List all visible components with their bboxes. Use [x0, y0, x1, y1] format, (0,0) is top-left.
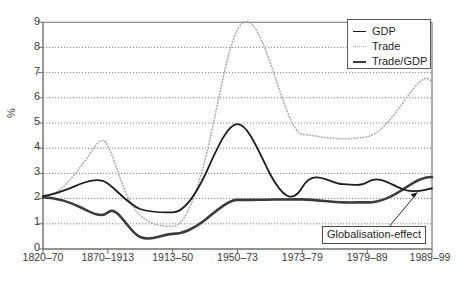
legend-entry-gdp: GDP [352, 23, 430, 38]
dotted-line-swatch-icon [352, 40, 367, 51]
x-tick-label: 1820–70 [23, 252, 64, 263]
legend-label: Trade [372, 40, 400, 52]
x-axis-tick-labels: 1820–70 1870–1913 1913–50 1950–73 1973–7… [0, 252, 467, 272]
legend-entry-trade: Trade [352, 38, 430, 53]
x-tick-label: 1950–73 [217, 252, 258, 263]
thick-line-swatch-icon [352, 55, 367, 66]
y-axis-ticks [38, 22, 43, 249]
annotation-label-globalisation-effect: Globalisation-effect [322, 226, 426, 244]
x-tick-label: 1979–89 [347, 252, 388, 263]
x-tick-label: 1973–79 [282, 252, 323, 263]
x-tick-label: 1989–99 [410, 252, 451, 263]
gridlines [43, 47, 432, 223]
solid-line-swatch-icon [352, 25, 367, 36]
legend-entry-trade-gdp: Trade/GDP [352, 53, 430, 68]
x-tick-label: 1913–50 [152, 252, 193, 263]
legend-label: Trade/GDP [372, 55, 427, 67]
chart-legend: GDP Trade Trade/GDP [347, 19, 431, 69]
legend-label: GDP [372, 25, 396, 37]
x-tick-label: 1870–1913 [82, 252, 135, 263]
chart-figure: % 9 8 7 6 5 4 3 2 1 0 [0, 0, 467, 283]
annotation-arrow [388, 192, 418, 228]
